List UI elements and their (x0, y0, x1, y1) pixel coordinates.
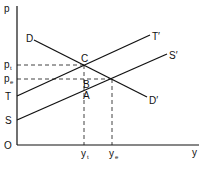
yt-subscript: t (87, 154, 89, 160)
pe-subscript: e (10, 79, 14, 85)
tax-supply-start-label: T (5, 91, 11, 102)
supply-end-label: S′ (169, 50, 178, 61)
pt-subscript: t (10, 65, 12, 71)
point-b-label: B (83, 79, 90, 90)
origin-label: O (4, 140, 12, 151)
supply-start-label: S (5, 115, 12, 126)
ye-subscript: e (115, 154, 119, 160)
point-a-label: A (83, 90, 90, 101)
x-axis-label: y (192, 147, 197, 158)
y-axis-label: p (4, 3, 10, 14)
diagram-canvas: p y O D D′ S S′ T T′ C B A p t p e y t y… (0, 0, 203, 175)
point-c-label: C (81, 53, 88, 64)
supply-curve (17, 54, 167, 120)
tax-supply-end-label: T′ (152, 31, 160, 42)
demand-start-label: D (26, 33, 33, 44)
demand-end-label: D′ (149, 95, 158, 106)
ye-label: y (109, 148, 114, 159)
demand-curve (34, 40, 147, 97)
yt-label: y (81, 148, 86, 159)
supply-demand-diagram: p y O D D′ S S′ T T′ C B A p t p e y t y… (0, 0, 203, 175)
